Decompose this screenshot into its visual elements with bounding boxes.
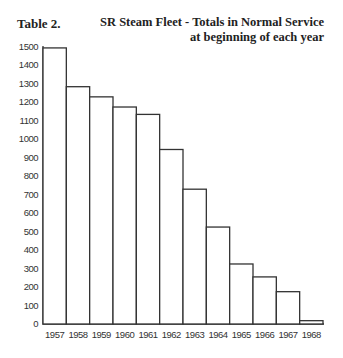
bar-1957 [43,48,66,324]
bar-1967 [276,292,299,324]
bar-1965 [230,264,253,324]
bar-chart-plot [0,0,343,358]
bar-1963 [183,189,206,324]
bar-1960 [113,107,136,324]
bar-1962 [160,149,183,324]
bar-1958 [66,87,89,324]
bar-1964 [206,227,229,324]
bar-1968 [300,321,323,324]
bar-1961 [136,114,159,324]
bar-1966 [253,277,276,324]
bar-1959 [90,97,113,324]
